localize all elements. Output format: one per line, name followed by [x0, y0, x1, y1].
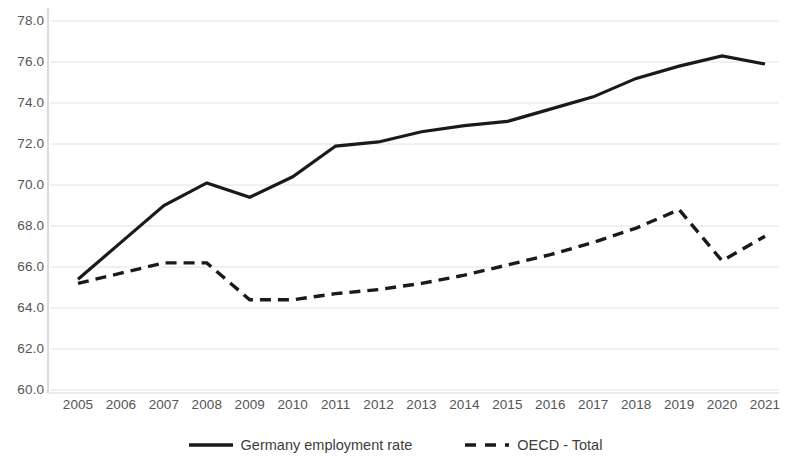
x-tick-label: 2012 — [363, 398, 393, 412]
x-tick-label: 2016 — [535, 398, 565, 412]
x-tick-label: 2006 — [106, 398, 136, 412]
x-tick-label: 2005 — [63, 398, 93, 412]
x-tick-label: 2013 — [406, 398, 436, 412]
series-line — [78, 210, 765, 300]
x-tick-label: 2020 — [707, 398, 737, 412]
chart-legend: Germany employment rateOECD - Total — [0, 424, 790, 466]
x-tick-label: 2008 — [192, 398, 222, 412]
legend-solid-line-icon — [188, 440, 234, 450]
x-tick-label: 2014 — [449, 398, 479, 412]
series-lines — [78, 56, 765, 300]
axis-lines — [48, 8, 779, 393]
x-tick-label: 2007 — [149, 398, 179, 412]
legend-label: OECD - Total — [517, 438, 602, 453]
plot-canvas — [0, 0, 790, 420]
employment-rate-line-chart: 60.062.064.066.068.070.072.074.076.078.0… — [0, 0, 790, 466]
gridlines — [50, 21, 779, 390]
x-tick-label: 2021 — [750, 398, 780, 412]
plot-area: 60.062.064.066.068.070.072.074.076.078.0… — [0, 0, 790, 420]
x-tick-label: 2019 — [664, 398, 694, 412]
x-axis: 2005200620072008200920102011201220132014… — [0, 393, 790, 420]
legend-entry[interactable]: Germany employment rate — [188, 438, 413, 453]
series-line — [78, 56, 765, 279]
x-tick-label: 2017 — [578, 398, 608, 412]
legend-dashed-line-icon — [464, 440, 510, 450]
legend-entry[interactable]: OECD - Total — [464, 438, 602, 453]
legend-label: Germany employment rate — [241, 438, 413, 453]
x-tick-label: 2011 — [321, 398, 350, 412]
x-tick-label: 2018 — [621, 398, 651, 412]
x-tick-label: 2015 — [492, 398, 522, 412]
x-tick-label: 2010 — [277, 398, 307, 412]
x-tick-label: 2009 — [235, 398, 265, 412]
